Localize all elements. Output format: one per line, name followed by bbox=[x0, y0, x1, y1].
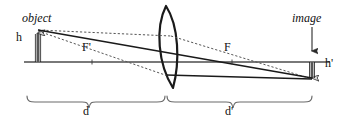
object-distance-label: d bbox=[83, 105, 89, 117]
focal-point-right-label: F bbox=[224, 41, 231, 53]
object-arrow bbox=[35, 33, 40, 62]
brace-image-distance bbox=[167, 96, 312, 108]
ray-diagram-canvas: object image h h' F' F d d' bbox=[0, 0, 346, 125]
image-arrow bbox=[310, 62, 315, 79]
object-label: object bbox=[22, 12, 51, 24]
object-height-label: h bbox=[16, 31, 22, 43]
image-height-label: h' bbox=[325, 57, 333, 69]
ray-through-front-focus bbox=[38, 31, 312, 79]
image-label: image bbox=[292, 12, 321, 24]
brace-object-distance bbox=[27, 96, 165, 108]
focal-point-left-label: F' bbox=[82, 41, 91, 53]
chief-ray-through-center bbox=[38, 30, 312, 78]
image-distance-label: d' bbox=[225, 105, 233, 117]
